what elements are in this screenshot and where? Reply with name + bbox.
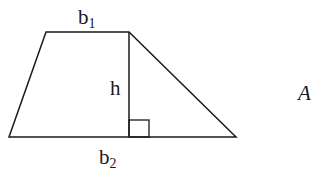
label-b2: b2 [99, 145, 117, 170]
label-area: A [296, 81, 311, 105]
label-h: h [110, 76, 121, 100]
trapezoid-diagram: b1 h b2 A [0, 0, 313, 170]
label-b1: b1 [78, 5, 96, 31]
trapezoid-outline [9, 32, 236, 137]
right-angle-marker [129, 120, 149, 137]
